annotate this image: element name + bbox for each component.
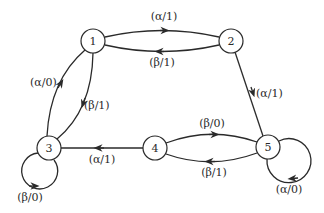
edge-2-to-1 [105, 45, 219, 52]
edge-label-4-to-5: (β/0) [199, 117, 225, 130]
node-label: 1 [90, 35, 97, 48]
edge-label-3-to-1: (α/0) [30, 76, 57, 89]
node-4: 4 [143, 136, 167, 160]
edge-label-1-to-3: (β/1) [84, 99, 110, 112]
edge-label-4-to-3: (α/1) [89, 153, 116, 166]
node-1: 1 [81, 29, 105, 53]
node-label: 5 [265, 141, 272, 154]
state-diagram: 1 2 3 4 5 (α/1) (β/1) (α/1) (α/0) (β/1) … [0, 0, 324, 213]
edge-3-to-1 [47, 50, 85, 136]
edge-label-3-self: (β/0) [17, 191, 43, 204]
node-label: 4 [152, 142, 159, 155]
edge-label-2-to-1: (β/1) [149, 56, 175, 69]
edge-label-5-to-4: (β/1) [201, 166, 227, 179]
edge-1-to-2 [105, 31, 219, 38]
arrowhead-icon [292, 178, 298, 179]
node-3: 3 [37, 136, 61, 160]
node-label: 3 [46, 142, 53, 155]
arrowhead-icon [251, 87, 253, 93]
edge-5-to-4 [166, 153, 257, 162]
edge-label-5-self: (α/0) [276, 183, 303, 196]
node-5: 5 [256, 135, 280, 159]
node-2: 2 [219, 29, 243, 53]
edge-1-to-3 [57, 53, 93, 139]
node-label: 2 [228, 35, 235, 48]
edge-4-to-5 [166, 134, 257, 143]
edge-label-1-to-2: (α/1) [151, 10, 178, 23]
edge-label-2-to-5: (α/1) [256, 87, 283, 100]
